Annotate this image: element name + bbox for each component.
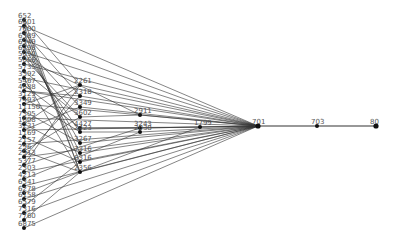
graph-node[interactable]: 1799 <box>194 119 212 129</box>
node-label: 3602 <box>74 109 92 117</box>
graph-node[interactable]: 2423 <box>74 124 92 134</box>
node-label: 2423 <box>74 124 92 132</box>
graph-node[interactable]: 6875 <box>18 220 36 230</box>
graph-edge <box>80 96 258 126</box>
node-label: 2913 <box>18 149 36 157</box>
graph-edge <box>24 126 258 213</box>
node-label: 6316 <box>74 154 92 162</box>
node-label: 2261 <box>74 77 92 85</box>
node-label: 7316 <box>74 145 92 153</box>
node-label: 1799 <box>194 119 212 127</box>
graph-node[interactable]: 3267 <box>74 135 92 145</box>
node-label: 3349 <box>74 99 92 107</box>
network-graph: 6526601760063896949629850505066573533925… <box>0 0 395 252</box>
graph-edge <box>80 126 258 162</box>
node-label: 701 <box>252 118 265 126</box>
graph-node[interactable]: 2038 <box>134 124 152 134</box>
node-label: 80 <box>370 118 379 126</box>
graph-node[interactable]: 80 <box>370 118 379 129</box>
graph-node[interactable]: 3602 <box>74 109 92 119</box>
node-label: 2038 <box>134 124 152 132</box>
node-label: 2911 <box>134 107 152 115</box>
node-label: 3267 <box>74 135 92 143</box>
node-label: 2318 <box>74 88 92 96</box>
node-label: 703 <box>311 118 324 126</box>
graph-edge <box>80 85 258 126</box>
node-label: 6875 <box>18 220 36 228</box>
node-label: 7760 <box>18 212 36 220</box>
node-label: 2356 <box>74 164 92 172</box>
